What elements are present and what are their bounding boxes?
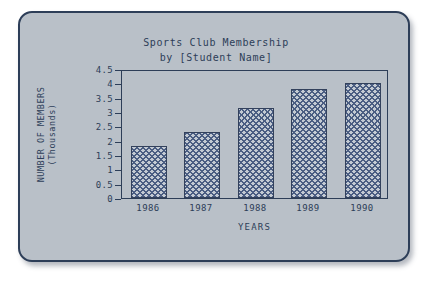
y-tick-mark	[115, 199, 121, 200]
x-tick-label: 1987	[171, 203, 231, 213]
bar	[345, 83, 381, 198]
y-tick-label: 1	[107, 165, 113, 175]
plot-frame	[121, 70, 388, 199]
y-axis-title: NUMBER OF MEMBERS (Thousands)	[36, 70, 66, 199]
chart-subtitle: by [Student Name]	[20, 50, 412, 65]
y-tick-label: 0	[107, 194, 113, 204]
y-tick-label: 3.5	[96, 94, 113, 104]
bar	[131, 146, 167, 198]
y-tick-label: 2.5	[96, 122, 113, 132]
y-tick-label: 3	[107, 108, 113, 118]
y-tick-label: 0.5	[96, 180, 113, 190]
x-tick-label: 1986	[118, 203, 178, 213]
bar	[238, 108, 274, 198]
chart-card: Sports Club Membership by [Student Name]…	[18, 11, 410, 262]
y-axis-title-line2: (Thousands)	[47, 70, 58, 199]
bar	[184, 132, 220, 198]
bars-area	[122, 71, 387, 198]
y-tick-label: 4.5	[96, 65, 113, 75]
chart-title: Sports Club Membership	[20, 35, 412, 50]
y-axis-title-line1: NUMBER OF MEMBERS	[36, 70, 47, 199]
bar	[291, 89, 327, 198]
y-tick-label: 4	[107, 79, 113, 89]
y-tick-label: 2	[107, 137, 113, 147]
x-tick-label: 1990	[332, 203, 392, 213]
y-tick-label: 1.5	[96, 151, 113, 161]
x-tick-label: 1988	[225, 203, 285, 213]
x-axis-title: YEARS	[121, 222, 388, 232]
chart-title-block: Sports Club Membership by [Student Name]	[20, 35, 412, 65]
x-tick-label: 1989	[278, 203, 338, 213]
